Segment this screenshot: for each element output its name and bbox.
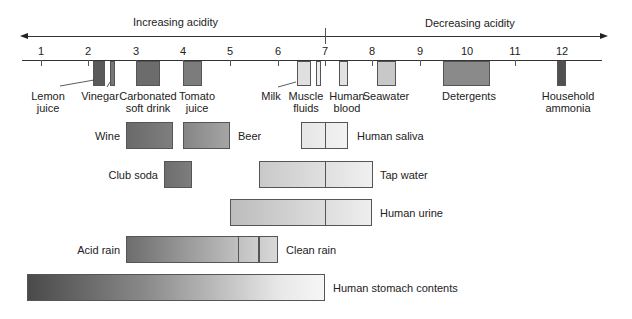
range-bar xyxy=(259,236,278,263)
range-bar xyxy=(301,122,348,149)
range-label: Clean rain xyxy=(286,244,336,256)
range-bar xyxy=(164,161,192,188)
range-bar xyxy=(126,236,259,263)
range-label: Human saliva xyxy=(357,130,424,142)
divider xyxy=(238,237,239,262)
range-label: Club soda xyxy=(64,169,158,181)
range-label: Acid rain xyxy=(26,244,120,256)
range-label: Tap water xyxy=(380,169,428,181)
leader-lines xyxy=(0,0,632,319)
range-bar xyxy=(126,122,173,149)
range-label: Human stomach contents xyxy=(333,282,458,294)
neutral-divider xyxy=(325,200,326,225)
range-bar xyxy=(183,122,230,149)
neutral-divider xyxy=(325,162,326,187)
range-label: Wine xyxy=(26,130,120,142)
range-bar xyxy=(259,161,373,188)
range-bar xyxy=(27,274,325,301)
range-label: Beer xyxy=(238,130,261,142)
range-bar xyxy=(230,199,372,226)
neutral-divider xyxy=(325,123,326,148)
range-label: Human urine xyxy=(380,207,443,219)
